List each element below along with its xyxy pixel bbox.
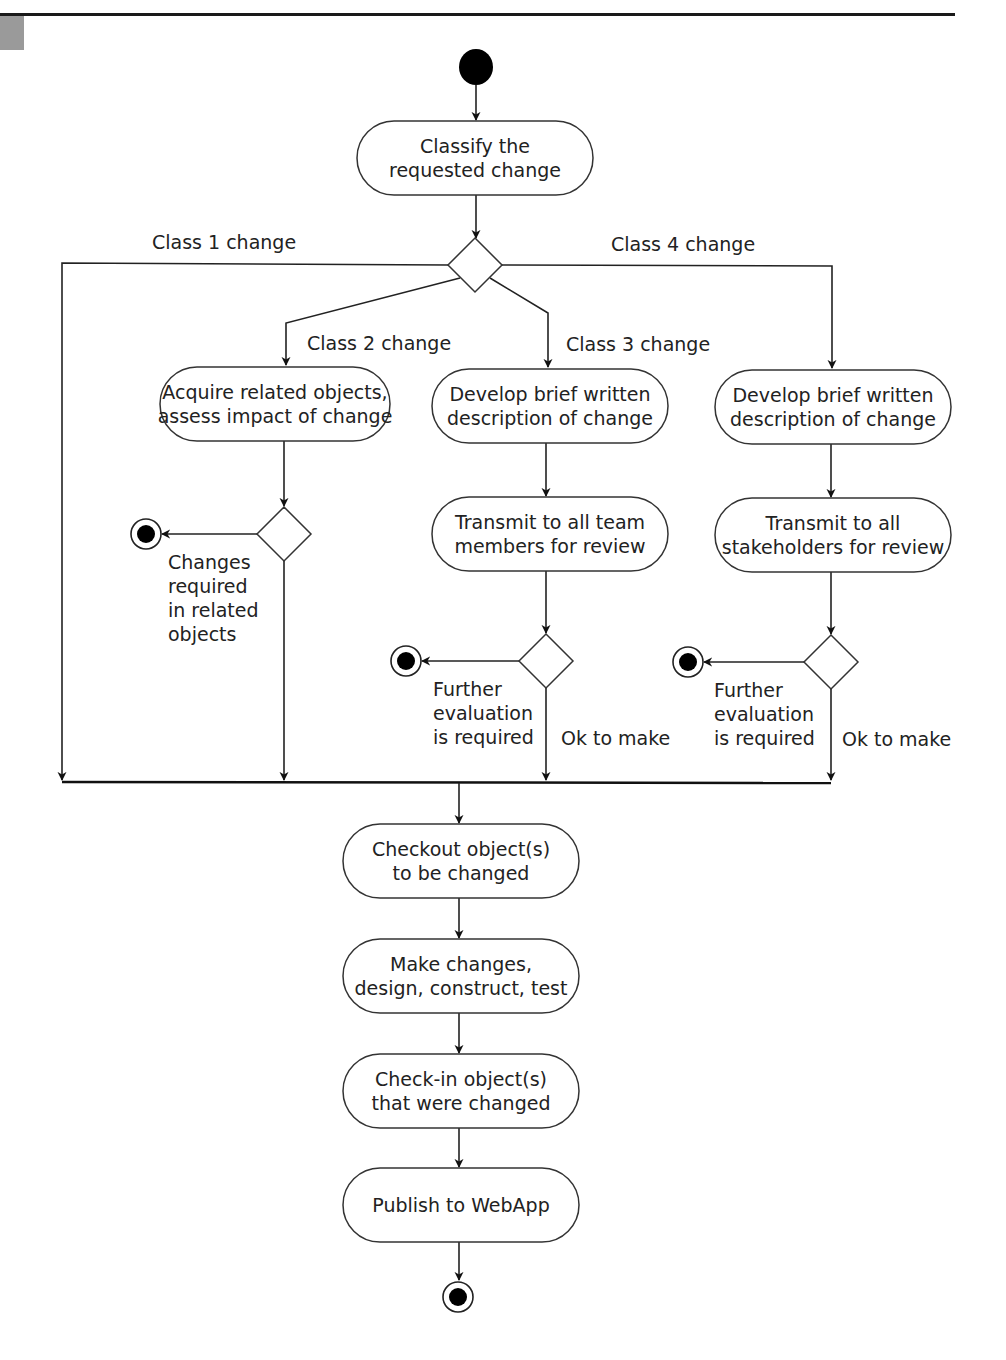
action-node-label: Publish to WebApp <box>372 1194 549 1216</box>
decision-diamond-icon <box>257 507 311 561</box>
end-node-icon <box>673 647 703 677</box>
end-node-icon <box>131 519 161 549</box>
action-node-acquire: Acquire related objects,assess impact of… <box>158 367 393 441</box>
action-node-transmit3: Transmit to all teammembers for review <box>432 497 668 571</box>
action-node-checkout: Checkout object(s)to be changed <box>343 824 579 898</box>
label-ok4: Ok to make <box>842 728 951 750</box>
action-node-publish: Publish to WebApp <box>343 1168 579 1242</box>
activity-diagram: Classify therequested changeAcquire rela… <box>0 0 1006 1360</box>
label-changes-required: Changes required in related objects <box>168 551 265 645</box>
edge-class3 <box>490 278 548 367</box>
action-node-develop4: Develop brief writtendescription of chan… <box>715 370 951 444</box>
label-ok3: Ok to make <box>561 727 670 749</box>
decision-diamond-icon <box>448 238 502 292</box>
decision-diamond-icon <box>519 634 573 688</box>
action-node-make: Make changes,design, construct, test <box>343 939 579 1013</box>
action-node-classify: Classify therequested change <box>357 121 593 195</box>
label-further-eval-4: Further evaluation is required <box>714 679 820 749</box>
action-node-checkin: Check-in object(s)that were changed <box>343 1054 579 1128</box>
end-node-icon <box>391 646 421 676</box>
decision-diamond-icon <box>804 635 858 689</box>
start-node-icon <box>459 49 493 85</box>
label-class3: Class 3 change <box>566 333 710 355</box>
label-further-eval-3: Further evaluation is required <box>433 678 539 748</box>
action-node-develop3: Develop brief writtendescription of chan… <box>432 369 668 443</box>
label-class1: Class 1 change <box>152 231 296 253</box>
label-class4: Class 4 change <box>611 233 755 255</box>
merge-bar <box>62 782 831 783</box>
label-class2: Class 2 change <box>307 332 451 354</box>
action-node-transmit4: Transmit to allstakeholders for review <box>715 498 951 572</box>
end-node-icon <box>443 1282 473 1312</box>
